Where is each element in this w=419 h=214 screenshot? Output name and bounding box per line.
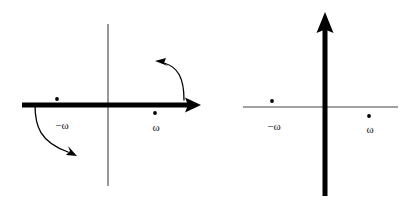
pole-label-omega-right: ω: [366, 123, 373, 135]
figure-root: −ω ω −ω ω: [0, 0, 419, 214]
pole-label-minus-omega-right: −ω: [267, 120, 280, 132]
pole-label-omega-left: ω: [152, 121, 159, 133]
pole-diagram-figure: −ω ω −ω ω: [0, 0, 419, 214]
pole-marker-minus-omega-left: [55, 97, 59, 101]
pole-marker-omega-right: [367, 114, 371, 118]
pole-marker-omega-left: [153, 111, 157, 115]
pole-label-minus-omega-left: −ω: [55, 119, 68, 131]
pole-marker-minus-omega-right: [270, 99, 274, 103]
